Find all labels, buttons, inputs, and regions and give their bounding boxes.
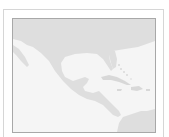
map-graphic (13, 19, 155, 132)
map-viewport[interactable] (12, 18, 156, 133)
island-puerto-rico (146, 89, 150, 91)
